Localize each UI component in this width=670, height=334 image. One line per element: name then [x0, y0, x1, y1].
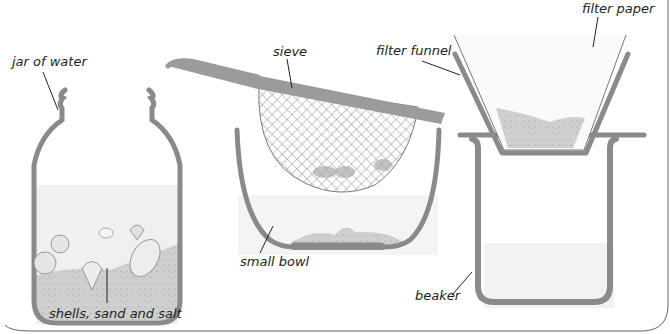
beaker — [460, 135, 644, 308]
label-funnel: filter funnel — [376, 43, 452, 58]
label-sieve: sieve — [273, 44, 307, 59]
leader-beaker — [452, 272, 472, 295]
separation-diagram: jar of water shells, sand and salt sieve… — [0, 0, 670, 334]
label-bowl: small bowl — [240, 254, 310, 269]
label-mixture: shells, sand and salt — [49, 306, 183, 321]
label-paper: filter paper — [582, 1, 656, 16]
label-jar: jar of water — [10, 54, 88, 69]
leader-funnel — [422, 61, 460, 75]
sieve — [168, 61, 445, 192]
label-beaker: beaker — [415, 288, 462, 303]
leader-jar — [43, 72, 58, 110]
